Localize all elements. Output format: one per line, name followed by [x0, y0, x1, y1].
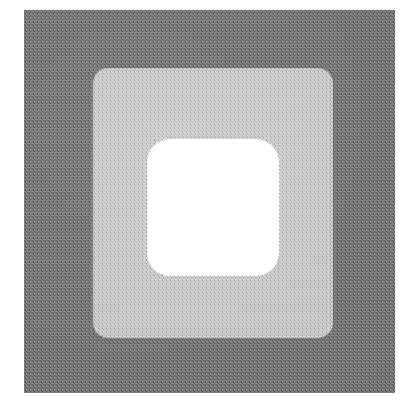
inner-white-square	[147, 139, 279, 276]
figure-canvas	[0, 0, 416, 413]
